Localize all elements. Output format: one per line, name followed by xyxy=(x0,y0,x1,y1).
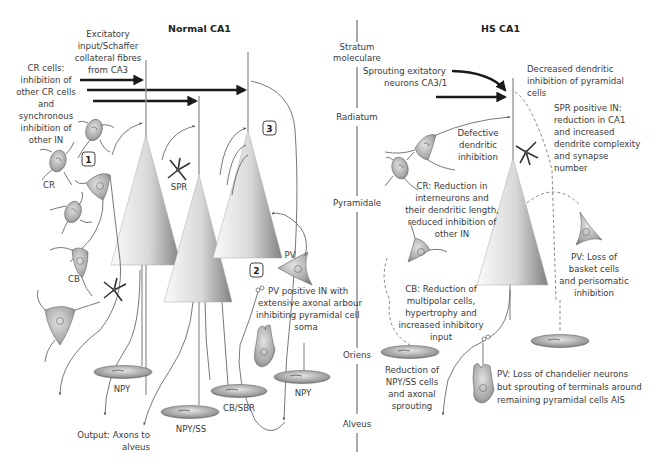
input-arrows-normal xyxy=(80,80,245,101)
svg-text:from CA3: from CA3 xyxy=(88,65,128,75)
svg-text:alveus: alveus xyxy=(122,442,150,452)
npy-ss-label: NPY/SS xyxy=(176,424,206,434)
hs-pv-basket-cell xyxy=(576,212,602,245)
svg-text:CR: Reduction in: CR: Reduction in xyxy=(417,181,488,191)
pyramidal-cell-1 xyxy=(111,135,181,265)
decreased-inhibition-note: Decreased dendritic inhibition of pyrami… xyxy=(527,64,624,98)
svg-text:1: 1 xyxy=(85,155,91,165)
svg-text:Reduction of: Reduction of xyxy=(385,365,440,375)
npy-ss-cell xyxy=(161,406,219,419)
svg-text:but sprouting of terminals aro: but sprouting of terminals around xyxy=(497,382,642,392)
cr-cell-3 xyxy=(50,192,92,234)
svg-text:other IN: other IN xyxy=(435,229,470,239)
hs-pv-dashed-arc xyxy=(527,192,580,205)
svg-text:sprouting: sprouting xyxy=(392,401,433,411)
svg-text:remaining pyramidal cells AIS: remaining pyramidal cells AIS xyxy=(497,395,625,405)
spr-label: SPR xyxy=(171,182,188,192)
hs-pv-chandelier-note: PV: Loss of chandelier neurons but sprou… xyxy=(497,369,642,405)
svg-text:input: input xyxy=(430,332,453,342)
layer-axis: Stratum moleculare Radiatum Pyramidale O… xyxy=(333,20,381,452)
svg-text:and increased: and increased xyxy=(554,127,615,137)
npy-right-label: NPY xyxy=(295,388,312,398)
sprouting-note: Sprouting exitatory neurons CA3/1 xyxy=(363,66,447,88)
svg-text:PV: Loss of: PV: Loss of xyxy=(571,252,618,262)
svg-text:and perisomatic: and perisomatic xyxy=(559,276,629,286)
svg-text:their dendritic length,: their dendritic length, xyxy=(405,205,499,215)
npy-left-label: NPY xyxy=(114,384,131,394)
svg-text:hypertrophy and: hypertrophy and xyxy=(405,308,477,318)
svg-text:CB: Reduction of: CB: Reduction of xyxy=(405,284,477,294)
cb-label: CB xyxy=(68,274,80,284)
svg-text:interneurons and: interneurons and xyxy=(415,193,488,203)
title-normal-ca1: Normal CA1 xyxy=(168,23,231,34)
spr-cell-normal-1 xyxy=(168,158,190,180)
cb-cell xyxy=(50,248,92,297)
sprouting-arrow-curved xyxy=(452,71,505,90)
svg-text:dendritic: dendritic xyxy=(459,140,497,150)
npy-cell-left xyxy=(94,265,152,379)
title-hs-ca1: HS CA1 xyxy=(481,23,520,34)
svg-text:neurons CA3/1: neurons CA3/1 xyxy=(384,78,447,88)
svg-text:Excitatory: Excitatory xyxy=(86,29,129,39)
svg-text:extensive axonal arbour: extensive axonal arbour xyxy=(258,298,362,308)
svg-text:other IN: other IN xyxy=(29,135,64,145)
layer-label-moleculare: moleculare xyxy=(333,53,381,63)
svg-text:Output: Axons to: Output: Axons to xyxy=(77,430,150,440)
svg-text:reduction in CA1: reduction in CA1 xyxy=(554,115,625,125)
svg-text:inhibition of pyramidal: inhibition of pyramidal xyxy=(527,76,624,86)
svg-text:inhibiting pyramidal cell: inhibiting pyramidal cell xyxy=(256,310,360,320)
pyramidal-cell-3 xyxy=(213,130,282,258)
svg-text:and axonal: and axonal xyxy=(388,389,435,399)
layer-label-stratum: Stratum xyxy=(340,42,375,52)
hippocampus-ca1-diagram: Normal CA1 HS CA1 Stratum moleculare Rad… xyxy=(0,0,661,465)
hs-cb-cell xyxy=(408,222,447,262)
svg-text:increased inhibitory: increased inhibitory xyxy=(398,320,483,330)
hs-cr-cell xyxy=(385,152,418,190)
svg-text:other CR cells: other CR cells xyxy=(16,87,76,97)
svg-text:PV: Loss of chandelier neurons: PV: Loss of chandelier neurons xyxy=(497,369,629,379)
cr-cells-note: CR cells: inhibition of other CR cells a… xyxy=(16,63,76,145)
cr-cell-2 xyxy=(40,142,74,185)
defective-inhibition-note: Defective dendritic inhibition xyxy=(457,128,498,162)
pv-positive-note: PV positive IN with extensive axonal arb… xyxy=(256,286,362,332)
svg-text:inhibition of: inhibition of xyxy=(21,123,73,133)
layer-label-pyramidale: Pyramidale xyxy=(333,198,381,208)
excitatory-input-label: Excitatory input/Schaffer collateral fib… xyxy=(75,29,142,75)
hs-npy-cell-left xyxy=(381,346,439,359)
spr-cell-hs xyxy=(516,142,538,165)
pv-label: PV xyxy=(284,250,295,260)
svg-text:synchronous: synchronous xyxy=(19,111,74,121)
svg-text:inhibition: inhibition xyxy=(458,152,498,162)
svg-text:reduced inhibition of: reduced inhibition of xyxy=(408,217,498,227)
cb-sbr-cell xyxy=(211,385,267,398)
cb-sbr-label: CB/SBR xyxy=(223,403,255,413)
layer-label-radiatum: Radiatum xyxy=(336,112,377,122)
svg-text:number: number xyxy=(554,163,588,173)
hs-npy-note: Reduction of NPY/SS cells and axonal spr… xyxy=(385,365,440,411)
svg-text:SPR positive IN:: SPR positive IN: xyxy=(554,103,622,113)
hs-cr-note: CR: Reduction in interneurons and their … xyxy=(405,181,499,239)
svg-text:input/Schaffer: input/Schaffer xyxy=(78,41,139,51)
npy-cell-right xyxy=(274,371,330,384)
svg-text:Sprouting exitatory: Sprouting exitatory xyxy=(363,66,446,76)
hs-cb-note: CB: Reduction of multipolar cells, hyper… xyxy=(398,284,483,342)
layer-label-oriens: Oriens xyxy=(343,350,371,360)
svg-text:soma: soma xyxy=(294,322,317,332)
svg-text:and: and xyxy=(38,99,54,109)
cr-label: CR xyxy=(43,180,55,190)
hs-pv-basket-note: PV: Loss of basket cells and perisomatic… xyxy=(559,252,629,298)
svg-text:Defective: Defective xyxy=(457,128,498,138)
interneuron-bottom-left xyxy=(37,290,100,362)
svg-text:dendrite complexity: dendrite complexity xyxy=(554,139,640,149)
spr-positive-note: SPR positive IN: reduction in CA1 and in… xyxy=(554,103,640,173)
svg-text:and synapse: and synapse xyxy=(554,151,608,161)
svg-text:PV positive IN with: PV positive IN with xyxy=(268,286,348,296)
svg-text:cells: cells xyxy=(527,88,547,98)
svg-text:2: 2 xyxy=(253,266,259,276)
svg-text:basket cells: basket cells xyxy=(569,264,620,274)
svg-text:CR cells:: CR cells: xyxy=(28,63,65,73)
svg-text:inhibition: inhibition xyxy=(574,288,614,298)
svg-text:3: 3 xyxy=(266,124,272,134)
svg-text:NPY/SS cells: NPY/SS cells xyxy=(386,377,439,387)
svg-text:Decreased dendritic: Decreased dendritic xyxy=(527,64,614,74)
